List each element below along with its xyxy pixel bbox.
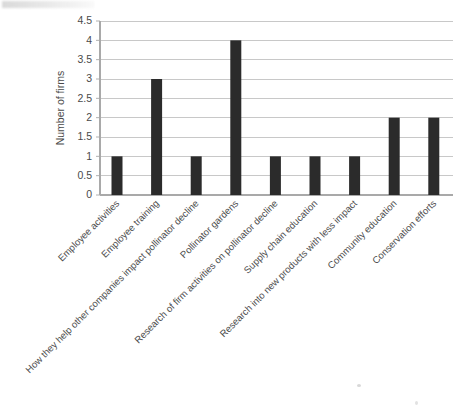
chart-canvas: 00.511.522.533.544.5 Number of firms Emp… — [0, 0, 474, 414]
y-axis-tick-label: 3 — [86, 72, 92, 84]
y-axis-tick-label: 1 — [86, 150, 92, 162]
x-axis-tick-label: How they help other companies impact pol… — [23, 198, 200, 375]
y-axis-tick-label: 2.5 — [77, 92, 92, 104]
bar — [310, 156, 321, 195]
scan-artifact-speck — [357, 384, 361, 387]
x-axis-tick-label: Community education — [325, 198, 398, 271]
bar — [428, 118, 439, 195]
y-axis-ticks-group: 00.511.522.533.544.5 — [77, 14, 100, 200]
y-axis-tick-label: 3.5 — [77, 53, 92, 65]
scan-artifact-speck — [415, 401, 418, 405]
x-axis-tick-label: Research into new products with less imp… — [217, 197, 359, 339]
scan-artifact-smudge — [2, 1, 94, 8]
y-axis-tick-label: 0 — [86, 188, 92, 200]
x-axis-tick-label: Research of firm activities on pollinato… — [132, 198, 280, 346]
y-axis-tick-label: 4.5 — [77, 14, 92, 26]
bar — [349, 156, 360, 195]
y-axis-tick-label: 2 — [86, 111, 92, 123]
bar-chart-figure: 00.511.522.533.544.5 Number of firms Emp… — [0, 0, 474, 414]
bar — [191, 156, 202, 195]
bar — [112, 156, 123, 195]
bar — [270, 156, 281, 195]
bar — [230, 40, 241, 195]
bar — [389, 118, 400, 195]
y-axis-tick-label: 4 — [86, 34, 92, 46]
y-axis-tick-label: 1.5 — [77, 130, 92, 142]
x-axis-tick-label: Supply chain education — [241, 198, 319, 276]
x-axis-tick-labels-group: Employee activitiesEmployee trainingHow … — [23, 197, 438, 375]
bar — [151, 79, 162, 195]
y-axis-title: Number of firms — [54, 71, 66, 146]
y-axis-tick-label: 0.5 — [77, 169, 92, 181]
